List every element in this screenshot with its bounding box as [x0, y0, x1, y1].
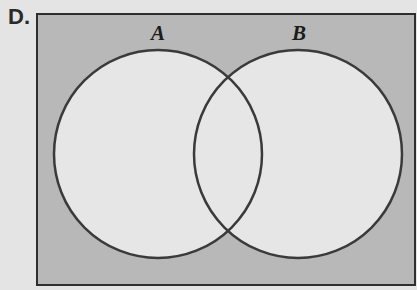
set-b-label: B [291, 21, 306, 45]
venn-diagram: A B [0, 0, 417, 290]
set-a-label: A [149, 21, 165, 45]
